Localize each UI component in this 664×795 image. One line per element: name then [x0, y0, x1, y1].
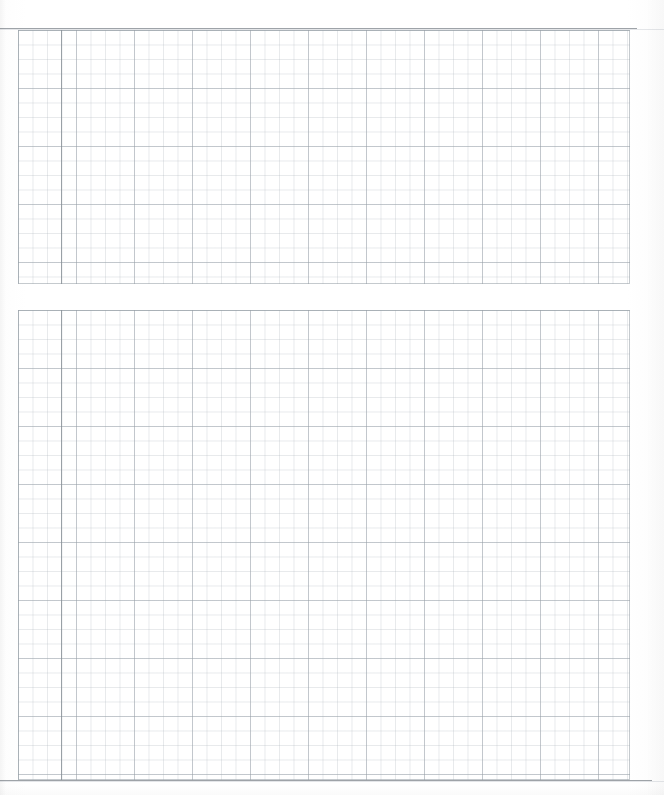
- upper-panel-margin-rule: [61, 30, 62, 284]
- page-caption: Blank graph paper sheet with two ruled g…: [0, 0, 1, 1]
- bottom-edge-shading: [0, 785, 664, 795]
- upper-grid-panel: [18, 30, 630, 284]
- bottom-rule-fade: [0, 781, 664, 782]
- left-edge-shading: [0, 0, 6, 795]
- right-edge-shading: [646, 0, 664, 795]
- lower-grid-panel: [18, 310, 630, 780]
- lower-panel-margin-rule: [61, 310, 62, 780]
- page-canvas: Blank graph paper sheet with two ruled g…: [0, 0, 664, 795]
